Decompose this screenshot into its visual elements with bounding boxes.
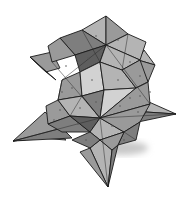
- origami-facet: [58, 72, 82, 100]
- texture-dot: [95, 101, 97, 103]
- texture-dot: [139, 75, 141, 77]
- texture-dot: [117, 39, 119, 41]
- texture-dot: [85, 139, 87, 141]
- texture-dot: [111, 125, 113, 127]
- texture-dot: [119, 105, 121, 107]
- texture-dot: [95, 35, 97, 37]
- texture-dot: [59, 109, 61, 111]
- origami-star-illustration: [0, 0, 188, 198]
- texture-dot: [87, 57, 89, 59]
- texture-dot: [77, 123, 79, 125]
- origami-facets: [13, 16, 176, 187]
- texture-dot: [65, 65, 67, 67]
- texture-dot: [137, 111, 139, 113]
- texture-dot: [53, 119, 55, 121]
- texture-dot: [149, 91, 151, 93]
- texture-dot: [79, 107, 81, 109]
- texture-dot: [61, 91, 63, 93]
- texture-dot: [71, 87, 73, 89]
- texture-dot: [123, 139, 125, 141]
- texture-dot: [91, 79, 93, 81]
- texture-dot: [139, 95, 141, 97]
- texture-dot: [129, 61, 131, 63]
- texture-dot: [129, 97, 131, 99]
- texture-dot: [117, 79, 119, 81]
